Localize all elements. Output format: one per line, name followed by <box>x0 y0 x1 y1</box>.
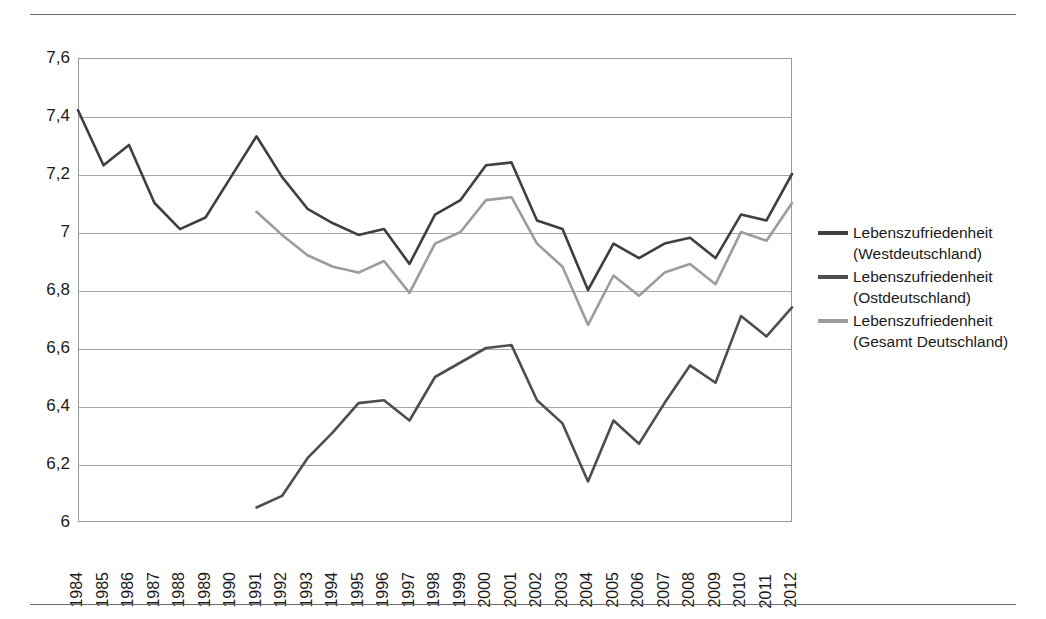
x-axis-tick-label: 1988 <box>171 572 191 608</box>
x-axis-tick-labels: 1984198519861987198819891990199119921993… <box>78 524 792 608</box>
x-axis-tick-label: 1989 <box>197 572 217 608</box>
x-axis-tick-label: 2007 <box>656 572 676 608</box>
x-axis-tick-label: 1992 <box>273 572 293 608</box>
x-axis-tick-label: 1985 <box>95 572 115 608</box>
y-axis-tick-label: 6,6 <box>6 339 70 356</box>
x-axis-tick-label: 2001 <box>503 572 523 608</box>
legend-item-label: Lebenszufriedenheit (Ostdeutschland) <box>853 266 993 308</box>
series-line <box>257 307 793 507</box>
x-axis-tick-label: 2002 <box>528 572 548 608</box>
legend-line-swatch <box>818 231 848 235</box>
x-axis-tick-label: 2011 <box>758 574 778 608</box>
y-axis-tick-label: 7,4 <box>6 107 70 124</box>
legend-item[interactable]: Lebenszufriedenheit (Ostdeutschland) <box>818 266 1043 308</box>
bottom-divider-rule <box>30 604 1016 605</box>
x-axis-tick-label: 2000 <box>477 572 497 608</box>
x-axis-tick-label: 1998 <box>426 572 446 608</box>
y-axis-tick-label: 7 <box>6 223 70 240</box>
x-axis-tick-label: 1996 <box>375 572 395 608</box>
y-axis-tick-label: 6,8 <box>6 281 70 298</box>
series-lines <box>78 58 792 522</box>
x-axis-tick-label: 1986 <box>120 572 140 608</box>
y-axis-tick-labels: 7,67,47,276,86,66,46,26 <box>0 0 70 619</box>
x-axis-tick-label: 2008 <box>681 572 701 608</box>
y-axis-tick-label: 6,4 <box>6 397 70 414</box>
y-axis-tick-label: 7,6 <box>6 49 70 66</box>
y-axis-tick-label: 6,2 <box>6 455 70 472</box>
x-axis-tick-label: 2004 <box>579 572 599 608</box>
x-axis-tick-label: 1984 <box>69 572 89 608</box>
series-line <box>78 110 792 290</box>
x-axis-tick-label: 2012 <box>783 572 803 608</box>
legend-item-label: Lebenszufriedenheit (Westdeutschland) <box>853 222 993 264</box>
legend-line-swatch <box>818 319 848 323</box>
x-axis-tick-label: 2009 <box>707 572 727 608</box>
y-axis-tick-label: 6 <box>6 513 70 530</box>
y-axis-tick-label: 7,2 <box>6 165 70 182</box>
x-axis-tick-label: 1995 <box>350 572 370 608</box>
x-axis-tick-label: 2003 <box>554 572 574 608</box>
legend-item[interactable]: Lebenszufriedenheit (Gesamt Deutschland) <box>818 310 1043 352</box>
x-axis-tick-label: 1987 <box>146 572 166 608</box>
x-axis-tick-label: 1994 <box>324 572 344 608</box>
x-axis-tick-label: 1997 <box>401 572 421 608</box>
legend-line-swatch <box>818 275 848 279</box>
legend-item-label: Lebenszufriedenheit (Gesamt Deutschland) <box>853 310 1008 352</box>
x-axis-tick-label: 1999 <box>452 572 472 608</box>
x-axis-tick-label: 1991 <box>248 572 268 608</box>
x-axis-tick-label: 2006 <box>630 572 650 608</box>
x-axis-tick-label: 1993 <box>299 572 319 608</box>
figure-container: 7,67,47,276,86,66,46,26 1984198519861987… <box>0 0 1046 619</box>
x-axis-tick-label: 1990 <box>222 572 242 608</box>
x-axis-tick-label: 2005 <box>605 572 625 608</box>
x-axis-tick-label: 2010 <box>732 572 752 608</box>
series-line <box>257 197 793 325</box>
chart-legend: Lebenszufriedenheit (Westdeutschland)Leb… <box>818 222 1043 354</box>
legend-item[interactable]: Lebenszufriedenheit (Westdeutschland) <box>818 222 1043 264</box>
